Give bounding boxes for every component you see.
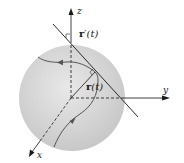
position-vector-label: r(t) [86,82,103,92]
diagram-canvas: z y x r′(t) r(t) [0,0,184,163]
z-axis-arrow-icon [69,8,74,15]
tangent-vector-arg: (t) [87,28,99,39]
z-axis-label: z [77,7,82,16]
y-axis-arrow-icon [162,96,170,101]
x-axis-arrow-icon [29,150,35,158]
y-axis-label: y [163,86,168,95]
tangent-vector-label: r′(t) [79,29,98,39]
x-axis-label: x [37,151,42,160]
position-vector-arg: (t) [91,81,103,92]
right-angle-marker-top [66,34,70,38]
